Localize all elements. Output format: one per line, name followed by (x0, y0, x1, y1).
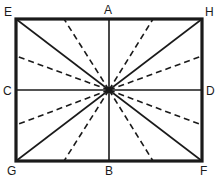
dashed-line-right-lower (109, 90, 202, 125)
label-g: G (7, 164, 16, 176)
dashed-line-left-lower (16, 90, 109, 125)
label-b: B (105, 164, 113, 176)
label-h: H (205, 5, 214, 19)
dashed-line-bottom-right (109, 90, 153, 161)
dashed-line-top-right (109, 19, 153, 90)
rectangle-symmetry-diagram: E A H C D G B F (0, 0, 215, 176)
label-f: F (200, 164, 207, 176)
label-e: E (4, 5, 12, 19)
label-c: C (3, 84, 12, 98)
dashed-line-right-upper (109, 56, 202, 90)
dashed-line-left-upper (16, 56, 109, 90)
dashed-line-top-left (64, 19, 109, 90)
center-point (106, 87, 112, 93)
label-a: A (104, 3, 112, 17)
dashed-line-bottom-left (64, 90, 109, 161)
label-d: D (206, 84, 215, 98)
